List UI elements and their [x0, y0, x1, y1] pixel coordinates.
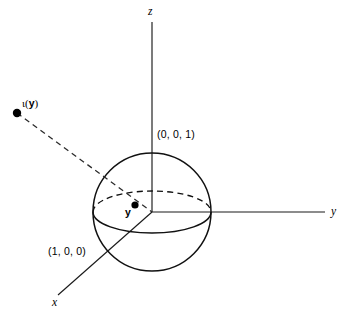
closing-paren: ) — [34, 97, 38, 109]
north-pole-coordinate-label: (0, 0, 1) — [157, 129, 195, 140]
figure-canvas — [0, 0, 349, 317]
sphere-inversion-figure: z y x (0, 0, 1) (1, 0, 0) y ι(y) — [0, 0, 349, 317]
exterior-point-label: ι(y) — [22, 98, 38, 109]
x-intercept-coordinate-label: (1, 0, 0) — [48, 246, 86, 257]
interior-point-dot — [131, 201, 138, 208]
y-axis-label: y — [331, 206, 336, 218]
equator-front-arc — [93, 212, 211, 233]
z-axis-label: z — [148, 6, 152, 18]
x-axis-label: x — [52, 297, 57, 309]
exterior-point-dot — [13, 109, 21, 117]
iota-symbol: ι( — [22, 97, 29, 109]
interior-point-label: y — [125, 207, 131, 218]
inversion-ray-dashed — [17, 113, 152, 212]
